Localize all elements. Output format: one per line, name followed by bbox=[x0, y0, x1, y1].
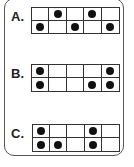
frame-cell bbox=[49, 78, 66, 91]
frame-cell bbox=[67, 125, 84, 138]
counter-dot-icon bbox=[37, 141, 45, 149]
frame-cell bbox=[49, 8, 66, 21]
counter-dot-icon bbox=[54, 141, 62, 149]
frame-cell bbox=[102, 21, 119, 34]
frame-cell bbox=[85, 138, 102, 151]
frame-cell bbox=[102, 138, 119, 151]
frame-cell bbox=[67, 78, 84, 91]
option-b-label: B. bbox=[11, 66, 24, 81]
frame-cell bbox=[67, 65, 84, 78]
frame-cell bbox=[49, 21, 66, 34]
counter-dot-icon bbox=[88, 10, 96, 18]
ten-frame-a[interactable] bbox=[31, 7, 120, 34]
frame-cell bbox=[32, 21, 49, 34]
counter-dot-icon bbox=[106, 67, 114, 75]
frame-cell bbox=[102, 65, 119, 78]
counter-dot-icon bbox=[36, 81, 44, 89]
ten-frame-b[interactable] bbox=[31, 64, 120, 92]
option-a-label: A. bbox=[11, 9, 24, 24]
counter-dot-icon bbox=[106, 23, 114, 31]
frame-cell bbox=[102, 78, 119, 91]
frame-cell bbox=[32, 8, 49, 21]
counter-dot-icon bbox=[36, 23, 44, 31]
counter-dot-icon bbox=[88, 81, 96, 89]
frame-cell bbox=[85, 125, 102, 138]
counter-dot-icon bbox=[89, 127, 97, 135]
counter-dot-icon bbox=[54, 10, 62, 18]
counter-dot-icon bbox=[36, 67, 44, 75]
frame-cell bbox=[84, 78, 101, 91]
frame-cell bbox=[84, 8, 101, 21]
option-c-label: C. bbox=[11, 126, 24, 141]
ten-frame-c[interactable] bbox=[32, 124, 120, 152]
frame-cell bbox=[67, 8, 84, 21]
counter-dot-icon bbox=[89, 141, 97, 149]
frame-cell bbox=[84, 65, 101, 78]
frame-cell bbox=[32, 65, 49, 78]
frame-cell bbox=[49, 65, 66, 78]
frame-cell bbox=[50, 138, 67, 151]
counter-dot-icon bbox=[106, 81, 114, 89]
frame-cell bbox=[102, 125, 119, 138]
frame-cell bbox=[32, 78, 49, 91]
frame-cell bbox=[67, 138, 84, 151]
frame-cell bbox=[84, 21, 101, 34]
counter-dot-icon bbox=[71, 23, 79, 31]
counter-dot-icon bbox=[37, 127, 45, 135]
frame-cell bbox=[33, 138, 50, 151]
frame-cell bbox=[33, 125, 50, 138]
frame-cell bbox=[50, 125, 67, 138]
frame-cell bbox=[102, 8, 119, 21]
frame-cell bbox=[67, 21, 84, 34]
